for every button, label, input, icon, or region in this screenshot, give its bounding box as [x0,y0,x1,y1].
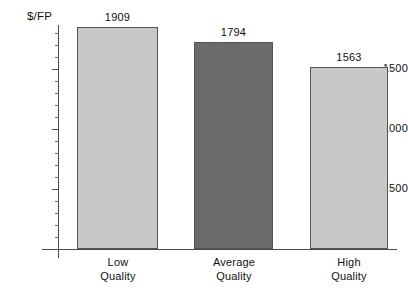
bar-value-label-low-quality: 1909 [77,12,158,23]
category-line-1: Average [188,256,280,270]
bar-high-quality [310,67,388,249]
y-axis-major-tick [52,129,59,130]
bar-chart: $/FP 1500 1000 500 1909 Low Quality 1794… [0,0,408,293]
y-axis-minor-tick [55,141,59,142]
y-axis-minor-tick [55,93,59,94]
category-line-2: Quality [303,270,395,284]
bar-low-quality [77,27,158,249]
y-axis-minor-tick [55,153,59,154]
y-axis-minor-tick [55,105,59,106]
y-axis-major-tick [52,189,59,190]
category-line-1: High [303,256,395,270]
y-axis-minor-tick [55,237,59,238]
y-axis-minor-tick [55,81,59,82]
y-axis-minor-tick [55,57,59,58]
bar-value-label-average-quality: 1794 [189,27,278,38]
x-axis-line [42,249,397,250]
y-axis-minor-tick [55,177,59,178]
y-axis-minor-tick [55,45,59,46]
y-axis-major-tick [52,69,59,70]
y-axis-minor-tick [55,165,59,166]
y-axis-minor-tick [55,201,59,202]
x-axis-category-label-low-quality: Low Quality [72,256,164,283]
x-axis-category-label-high-quality: High Quality [303,256,395,283]
y-axis-minor-tick [55,117,59,118]
x-axis-category-label-average-quality: Average Quality [188,256,280,283]
y-axis-minor-tick [55,225,59,226]
y-axis-minor-tick [55,213,59,214]
category-line-2: Quality [188,270,280,284]
bar-value-label-high-quality: 1563 [305,52,393,63]
category-line-2: Quality [72,270,164,284]
y-axis-title: $/FP [27,10,52,22]
category-line-1: Low [72,256,164,270]
bar-average-quality [194,42,273,249]
y-axis-minor-tick [55,33,59,34]
